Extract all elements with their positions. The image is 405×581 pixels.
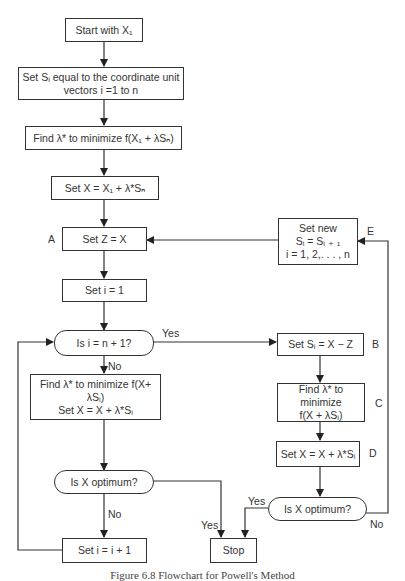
point-label-e: E xyxy=(367,225,374,237)
decision-x-optimum-left: Is X optimum? xyxy=(54,470,154,494)
increment-i-node: Set i = i + 1 xyxy=(62,538,147,563)
find-lambda-n-text: Find λ* to minimize f(X₁ + λSₙ) xyxy=(33,132,173,145)
point-label-a: A xyxy=(48,233,55,245)
set-z-node: Set Z = X xyxy=(62,227,147,251)
decision-x-optimum-left-text: Is X optimum? xyxy=(70,476,137,489)
find-lambda-i-node: Find λ* to minimize f(X+ λSᵢ) Set X = X … xyxy=(30,374,161,420)
stop-node: Stop xyxy=(210,538,257,563)
set-si-x-minus-z-text: Set Sᵢ = X − Z xyxy=(288,338,353,351)
start-node: Start with X₁ xyxy=(65,18,143,42)
set-x-d-node: Set X = X + λ*Sᵢ xyxy=(276,441,360,467)
set-new-line3: i = 1, 2,. . . , n xyxy=(286,248,350,261)
point-label-b: B xyxy=(372,338,379,350)
edge-label-yes-left-opt: Yes xyxy=(201,519,218,531)
decision-i-text: Is i = n + 1? xyxy=(77,337,132,350)
set-x-d-text: Set X = X + λ*Sᵢ xyxy=(281,448,356,461)
decision-x-optimum-right: Is X optimum? xyxy=(268,497,367,521)
find-lambda-c-node: Find λ* to minimize f(X + λSᵢ) xyxy=(277,383,365,422)
set-unit-vectors-line1: Set Sᵢ equal to the coordinate unit xyxy=(23,71,180,84)
set-new-line1: Set new xyxy=(299,222,337,235)
edge-label-no-left: No xyxy=(108,508,121,520)
point-label-d: D xyxy=(369,447,377,459)
edge-label-yes-right-opt: Yes xyxy=(248,495,265,507)
find-lambda-i-line2: Set X = X + λ*Sᵢ xyxy=(58,404,133,417)
find-lambda-n-node: Find λ* to minimize f(X₁ + λSₙ) xyxy=(25,126,182,150)
set-si-x-minus-z-node: Set Sᵢ = X − Z xyxy=(277,333,364,356)
set-new-directions-node: Set new Sᵢ = Sᵢ ₊ ₁ i = 1, 2,. . . , n xyxy=(278,218,358,265)
set-unit-vectors-node: Set Sᵢ equal to the coordinate unit vect… xyxy=(18,67,184,100)
set-z-text: Set Z = X xyxy=(82,233,126,246)
stop-text: Stop xyxy=(223,544,245,557)
point-label-c: C xyxy=(375,397,383,409)
find-lambda-c-line2: f(X + λSᵢ) xyxy=(300,409,343,422)
set-new-line2: Sᵢ = Sᵢ ₊ ₁ xyxy=(296,235,341,248)
set-i-one-text: Set i = 1 xyxy=(85,284,124,297)
edge-label-yes-top: Yes xyxy=(162,327,179,339)
set-unit-vectors-line2: vectors i =1 to n xyxy=(64,84,138,97)
decision-x-optimum-right-text: Is X optimum? xyxy=(284,503,351,516)
edge-label-no-right-opt: No xyxy=(370,518,383,530)
find-lambda-c-line1: Find λ* to minimize xyxy=(278,383,364,409)
find-lambda-i-line1: Find λ* to minimize f(X+ λSᵢ) xyxy=(31,378,160,404)
increment-i-text: Set i = i + 1 xyxy=(78,544,131,557)
figure-caption: Figure 6.8 Flowchart for Powell's Method xyxy=(0,569,405,581)
set-x-initial-node: Set X = X₁ + λ*Sₙ xyxy=(51,176,159,200)
set-x-initial-text: Set X = X₁ + λ*Sₙ xyxy=(65,182,146,195)
start-text: Start with X₁ xyxy=(75,24,132,37)
set-i-one-node: Set i = 1 xyxy=(62,279,147,302)
decision-i-equals-n-plus-1: Is i = n + 1? xyxy=(54,330,154,356)
edge-label-no-mid: No xyxy=(108,360,121,372)
